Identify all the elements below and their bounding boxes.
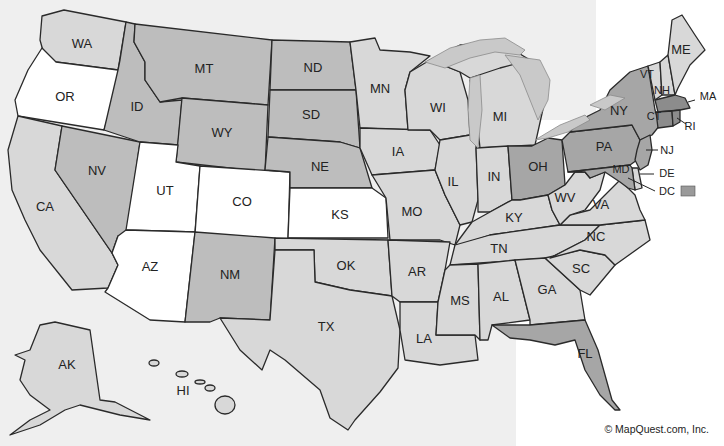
label-tn: TN	[490, 241, 507, 256]
label-mo: MO	[402, 204, 423, 219]
label-vt: VT	[640, 68, 654, 80]
label-wy: WY	[212, 125, 233, 140]
label-nh: NH	[654, 84, 670, 96]
label-ut: UT	[156, 183, 173, 198]
leader-ma	[688, 100, 695, 102]
label-hi: HI	[177, 383, 190, 398]
label-ma: MA	[700, 90, 717, 102]
label-ny: NY	[610, 103, 628, 118]
label-mt: MT	[195, 61, 214, 76]
label-sc: SC	[572, 261, 590, 276]
label-ca: CA	[36, 199, 54, 214]
label-de: DE	[659, 167, 674, 179]
label-in: IN	[488, 169, 501, 184]
label-al: AL	[493, 289, 509, 304]
label-ok: OK	[337, 258, 356, 273]
label-wv: WV	[555, 190, 576, 205]
label-il: IL	[448, 174, 459, 189]
label-az: AZ	[142, 259, 159, 274]
label-ne: NE	[311, 159, 329, 174]
state-fl[interactable]	[492, 320, 620, 410]
label-nd: ND	[304, 60, 323, 75]
dc-swatch	[681, 186, 695, 196]
label-nv: NV	[88, 163, 106, 178]
label-ar: AR	[408, 264, 426, 279]
label-ga: GA	[538, 282, 557, 297]
label-ks: KS	[331, 207, 349, 222]
label-tx: TX	[318, 319, 335, 334]
label-id: ID	[131, 99, 144, 114]
state-az[interactable]	[105, 230, 195, 322]
label-la: LA	[416, 331, 432, 346]
label-wi: WI	[430, 100, 446, 115]
label-wa: WA	[72, 36, 93, 51]
label-oh: OH	[528, 159, 548, 174]
label-fl: FL	[577, 346, 592, 361]
label-co: CO	[232, 194, 252, 209]
label-md: MD	[612, 163, 629, 175]
label-sd: SD	[302, 107, 320, 122]
copyright-text: © MapQuest.com, Inc.	[604, 423, 709, 435]
label-nj: NJ	[660, 144, 673, 156]
label-dc: DC	[659, 185, 675, 197]
label-me: ME	[671, 42, 691, 57]
label-ky: KY	[505, 210, 523, 225]
state-ri[interactable]	[672, 110, 680, 126]
state-hi[interactable]	[149, 360, 235, 414]
label-nc: NC	[587, 229, 606, 244]
label-mn: MN	[370, 81, 390, 96]
label-pa: PA	[596, 139, 613, 154]
label-ak: AK	[58, 357, 76, 372]
label-ia: IA	[392, 144, 405, 159]
label-nm: NM	[220, 267, 240, 282]
label-ri: RI	[685, 120, 696, 132]
us-map: WA OR CA NV ID MT WY UT CO AZ NM ND SD N…	[0, 0, 724, 446]
label-or: OR	[55, 89, 75, 104]
label-ct: CT	[647, 110, 662, 122]
state-ak[interactable]	[10, 322, 150, 435]
label-ms: MS	[450, 293, 470, 308]
label-mi: MI	[493, 109, 507, 124]
label-va: VA	[593, 197, 610, 212]
